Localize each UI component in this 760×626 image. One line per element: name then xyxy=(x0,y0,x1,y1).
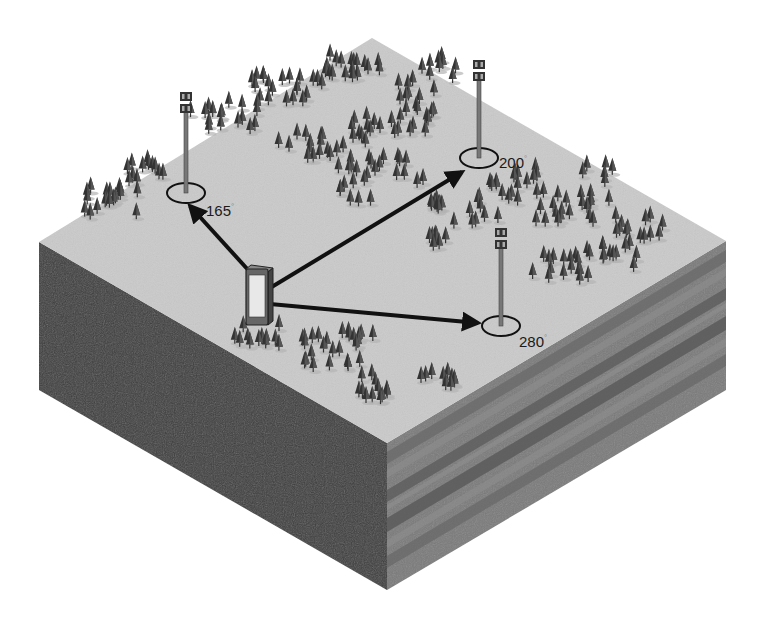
phone-screen xyxy=(249,275,265,317)
terrain-diagram: 165°200°280° xyxy=(0,0,760,626)
bearing-label-tower-3: 280° xyxy=(519,333,547,350)
bearing-label-tower-1: 165° xyxy=(206,202,234,219)
mobile-phone-icon xyxy=(246,265,273,325)
tower-mast-icon xyxy=(499,248,503,326)
tower-mast-icon xyxy=(184,112,188,193)
bearing-label-tower-2: 200° xyxy=(499,154,527,171)
tree-icon xyxy=(225,91,237,110)
tower-mast-icon xyxy=(477,80,481,158)
tree-icon xyxy=(608,158,620,177)
antenna-array-icon xyxy=(473,60,485,81)
tree-icon xyxy=(238,94,250,113)
